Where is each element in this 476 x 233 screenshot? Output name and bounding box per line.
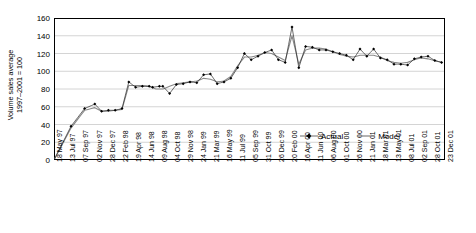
- x-axis-tick-7: 14 Jun 98: [148, 131, 155, 162]
- x-axis-tick-9: 04 Oct 98: [174, 132, 181, 162]
- x-axis-tick-15: 05 Sep 99: [252, 130, 259, 162]
- data-point: [440, 61, 443, 64]
- y-axis-label-line-2: 1997–2001 = 100: [15, 50, 24, 121]
- x-axis-tick-30: 23 Dec 01: [447, 130, 454, 162]
- chart-container: Volume sales average 1997–2001 = 100 020…: [0, 0, 476, 233]
- x-axis-tick-5: 22 Feb 98: [122, 130, 129, 162]
- x-axis-labels: 18 May 9713 Jul 9707 Sep 9702 Nov 9728 D…: [54, 162, 445, 232]
- x-axis-tick-29: 28 Oct 01: [434, 132, 441, 162]
- y-axis-tick-40: 40: [41, 120, 50, 129]
- data-point: [331, 50, 334, 53]
- x-axis-tick-18: 20 Feb 00: [291, 130, 298, 162]
- y-axis-tick-140: 140: [37, 31, 50, 40]
- data-point: [297, 66, 300, 69]
- data-point: [158, 85, 161, 88]
- legend-label-model: Model: [378, 132, 400, 141]
- legend-label-actual: Actual: [321, 132, 343, 141]
- x-axis-tick-11: 24 Jan 99: [200, 131, 207, 162]
- y-axis-tick-20: 20: [41, 138, 50, 147]
- gridlines: [54, 18, 445, 142]
- x-axis-tick-0: 18 May 97: [56, 129, 63, 162]
- x-axis-tick-1: 13 Jul 97: [69, 134, 76, 162]
- y-axis-label: Volume sales average 1997–2001 = 100: [2, 0, 28, 170]
- y-axis-tick-0: 0: [46, 156, 50, 165]
- x-axis-tick-12: 21 Mar 99: [213, 130, 220, 162]
- y-axis-tick-160: 160: [37, 14, 50, 23]
- data-point: [284, 61, 287, 64]
- x-axis-tick-16: 31 Oct 99: [265, 132, 272, 162]
- x-axis-tick-13: 16 May 99: [226, 129, 233, 162]
- data-point: [318, 48, 321, 51]
- y-axis-ticks: 020406080100120140160: [28, 0, 52, 170]
- legend-item-actual: Actual: [300, 132, 343, 141]
- x-axis-tick-10: 29 Nov 98: [187, 130, 194, 162]
- legend-item-model: Model: [357, 132, 400, 141]
- x-axis-tick-6: 19 Apr 98: [135, 132, 142, 162]
- data-point: [291, 25, 294, 28]
- legend-marker-icon: [300, 132, 318, 140]
- y-axis-tick-100: 100: [37, 67, 50, 76]
- data-point: [189, 80, 192, 83]
- y-axis-tick-120: 120: [37, 49, 50, 58]
- chart-legend: Actual Model: [300, 129, 420, 143]
- legend-line-icon: [357, 132, 375, 140]
- x-axis-tick-17: 26 Dec 99: [278, 130, 285, 162]
- x-axis-tick-28: 02 Sep 01: [421, 130, 428, 162]
- x-axis-tick-2: 07 Sep 97: [82, 130, 89, 162]
- x-axis-tick-3: 02 Nov 97: [96, 130, 103, 162]
- y-axis-tick-80: 80: [41, 85, 50, 94]
- x-axis-tick-14: 11 Jul 99: [239, 134, 246, 162]
- data-point: [148, 85, 151, 88]
- data-point: [304, 45, 307, 48]
- y-axis-label-line-1: Volume sales average: [6, 50, 15, 121]
- x-axis-tick-8: 09 Aug 98: [161, 130, 168, 162]
- y-axis-tick-60: 60: [41, 102, 50, 111]
- x-axis-tick-4: 28 Dec 97: [109, 130, 116, 162]
- data-point: [114, 109, 117, 112]
